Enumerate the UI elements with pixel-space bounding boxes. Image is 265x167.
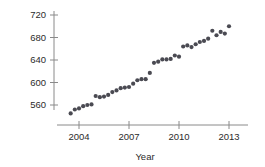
data-point <box>189 45 193 49</box>
y-axis-tick-label: 560 <box>30 99 46 110</box>
data-point <box>127 85 131 89</box>
data-point <box>135 78 139 82</box>
data-point <box>110 90 114 94</box>
x-axis-tick-label: 2010 <box>168 131 189 142</box>
x-axis: 2004200720102013 <box>57 121 248 142</box>
data-point <box>106 93 110 97</box>
data-point <box>206 37 210 41</box>
data-point <box>139 77 143 81</box>
x-axis-tick-label: 2013 <box>218 131 239 142</box>
data-point <box>94 94 98 98</box>
data-point <box>123 85 127 89</box>
data-point <box>69 111 73 115</box>
data-point <box>114 88 118 92</box>
data-point <box>214 33 218 37</box>
data-point <box>85 103 89 107</box>
chart-canvas: 560600640680720 2004200720102013 Women's… <box>0 0 265 167</box>
data-point <box>89 102 93 106</box>
data-point <box>194 42 198 46</box>
x-axis-tick-labels: 2004200720102013 <box>68 131 239 142</box>
data-point-series <box>69 24 232 115</box>
data-point <box>152 61 156 65</box>
data-point <box>164 57 168 61</box>
data-point <box>198 40 202 44</box>
data-point <box>223 31 227 35</box>
data-point <box>185 43 189 47</box>
data-point <box>73 107 77 111</box>
x-axis-tick-label: 2007 <box>118 131 139 142</box>
y-axis-tick-label: 640 <box>30 54 46 65</box>
data-point <box>219 30 223 34</box>
y-axis-tick-labels: 560600640680720 <box>30 9 46 110</box>
y-axis-tick-label: 720 <box>30 9 46 20</box>
data-point <box>169 57 173 61</box>
data-point <box>77 106 81 110</box>
data-point <box>131 82 135 86</box>
data-point <box>144 77 148 81</box>
data-point <box>210 29 214 33</box>
scatter-chart: 560600640680720 2004200720102013 Women's… <box>0 0 265 167</box>
data-point <box>148 71 152 75</box>
data-point <box>173 53 177 57</box>
data-point <box>102 94 106 98</box>
y-axis-tick-label: 680 <box>30 32 46 43</box>
data-point <box>81 104 85 108</box>
data-point <box>160 57 164 61</box>
y-axis: 560600640680720 <box>30 9 58 110</box>
data-point <box>177 55 181 59</box>
data-point <box>98 95 102 99</box>
x-axis-title: Year <box>135 151 154 162</box>
y-axis-tick-label: 600 <box>30 77 46 88</box>
x-axis-tick-label: 2004 <box>68 131 89 142</box>
data-point <box>156 60 160 64</box>
data-point <box>181 44 185 48</box>
data-point <box>202 39 206 43</box>
data-point <box>227 24 231 28</box>
data-point <box>119 86 123 90</box>
